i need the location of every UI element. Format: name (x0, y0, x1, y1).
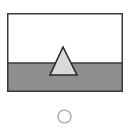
option-radio-button[interactable] (57, 109, 72, 124)
scene-figure (7, 13, 123, 92)
scene-illustration (7, 13, 123, 92)
radio-circle-icon (57, 109, 72, 124)
answer-option-card (0, 0, 135, 128)
